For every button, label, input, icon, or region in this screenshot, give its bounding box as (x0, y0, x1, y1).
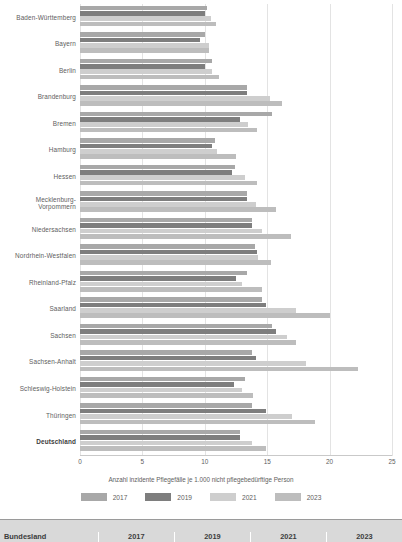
bar-2019 (80, 303, 266, 308)
bar-2019 (80, 91, 247, 96)
bar-2017 (80, 85, 247, 90)
legend-label-2019: 2019 (177, 494, 192, 501)
bar-2017 (80, 191, 247, 196)
legend-swatch-2023 (275, 493, 301, 501)
legend-item-2017[interactable]: 2017 (81, 493, 128, 501)
bar-group (80, 269, 392, 296)
category-label-line: Bayern (55, 40, 76, 47)
bar-2023 (80, 101, 282, 106)
bar-2021 (80, 16, 211, 21)
bar-2019 (80, 223, 252, 228)
bar-2021 (80, 414, 292, 419)
category-label-mecklenburg-vorpommern: Mecklenburg-Vorpommern (0, 196, 76, 211)
category-label-line: Saarland (49, 305, 76, 312)
legend-item-2019[interactable]: 2019 (145, 493, 192, 501)
bar-group (80, 110, 392, 137)
category-label-sachsen: Sachsen (0, 332, 76, 339)
bar-2019 (80, 197, 247, 202)
category-label-hessen: Hessen (0, 173, 76, 180)
bar-2021 (80, 335, 287, 340)
category-label-line: Bremen (53, 120, 76, 127)
bar-group (80, 57, 392, 84)
x-tick-label: 0 (78, 458, 82, 465)
bar-2019 (80, 435, 240, 440)
legend-label-2023: 2023 (307, 494, 322, 501)
category-label-line: Sachsen (50, 332, 76, 339)
table-column-header-2023[interactable]: 2023 (326, 532, 402, 542)
category-label-deutschland: Deutschland (0, 438, 76, 445)
category-label-line: Baden-Württemberg (16, 14, 76, 21)
bar-group (80, 4, 392, 31)
bar-group (80, 375, 392, 402)
bar-2017 (80, 112, 272, 117)
bar-2021 (80, 229, 262, 234)
x-tick-label: 5 (141, 458, 145, 465)
bar-2021 (80, 308, 296, 313)
legend-item-2021[interactable]: 2021 (210, 493, 257, 501)
bar-2017 (80, 138, 215, 143)
category-label-nordrhein-westfalen: Nordrhein-Westfalen (0, 252, 76, 259)
bar-2021 (80, 43, 209, 48)
bar-2021 (80, 69, 212, 74)
bar-group (80, 137, 392, 164)
bar-2021 (80, 388, 242, 393)
x-tick-label: 25 (388, 458, 395, 465)
category-label-brandenburg: Brandenburg (0, 93, 76, 100)
bar-group (80, 31, 392, 58)
bar-2023 (80, 234, 291, 239)
bar-2021 (80, 175, 245, 180)
category-label-th-ringen: Thüringen (0, 412, 76, 419)
table-column-header-2021[interactable]: 2021 (250, 532, 326, 542)
bar-2021 (80, 96, 270, 101)
bar-2021 (80, 361, 306, 366)
bar-group (80, 296, 392, 323)
bar-group (80, 428, 392, 455)
bar-2019 (80, 356, 256, 361)
table-column-header-2019[interactable]: 2019 (174, 532, 250, 542)
bar-2023 (80, 446, 266, 451)
bar-2019 (80, 117, 240, 122)
category-label-line: Berlin (59, 67, 76, 74)
bar-group (80, 322, 392, 349)
bar-2023 (80, 48, 209, 53)
bar-2021 (80, 255, 258, 260)
table-column-header-bundesland[interactable]: Bundesland (0, 532, 98, 542)
bar-2017 (80, 403, 252, 408)
x-tick-label: 20 (326, 458, 333, 465)
category-label-hamburg: Hamburg (0, 146, 76, 153)
category-label-rheinland-pfalz: Rheinland-Pfalz (0, 279, 76, 286)
bar-2019 (80, 170, 232, 175)
bar-group (80, 84, 392, 111)
bar-2017 (80, 324, 272, 329)
bar-2021 (80, 149, 217, 154)
category-label-line: Schleswig-Holstein (20, 385, 76, 392)
bar-2017 (80, 430, 240, 435)
category-label-bremen: Bremen (0, 120, 76, 127)
bar-2023 (80, 128, 257, 133)
category-label-niedersachsen: Niedersachsen (0, 226, 76, 233)
bar-group (80, 190, 392, 217)
bar-2017 (80, 6, 207, 11)
table-header-strip: Bundesland2017201920212023 (0, 519, 402, 542)
category-label-line: Thüringen (46, 412, 76, 419)
bar-2019 (80, 38, 200, 43)
bar-2017 (80, 297, 262, 302)
chart-legend: 2017201920212023 (0, 493, 402, 501)
bar-2023 (80, 393, 253, 398)
x-axis-tick-labels: 0510152025 (80, 458, 392, 470)
table-column-header-2017[interactable]: 2017 (98, 532, 174, 542)
bar-2021 (80, 202, 256, 207)
bar-2023 (80, 75, 219, 80)
bar-2023 (80, 313, 330, 318)
bar-2017 (80, 271, 247, 276)
category-label-schleswig-holstein: Schleswig-Holstein (0, 385, 76, 392)
category-label-line: Niedersachsen (32, 226, 76, 233)
category-label-line: Brandenburg (38, 93, 76, 100)
bar-2019 (80, 276, 236, 281)
x-axis-line (80, 455, 392, 456)
legend-item-2023[interactable]: 2023 (275, 493, 322, 501)
category-label-line: Deutschland (36, 438, 76, 445)
x-axis-title: Anzahl inzidente Pflegefälle je 1.000 ni… (0, 476, 402, 483)
legend-label-2017: 2017 (113, 494, 128, 501)
